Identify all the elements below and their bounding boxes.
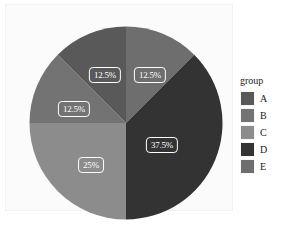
- pie-svg: [29, 26, 223, 220]
- legend-swatch-c: [241, 126, 254, 139]
- legend-item-e[interactable]: E: [240, 158, 286, 175]
- legend-swatch-d: [241, 143, 254, 156]
- legend-key-e: [240, 159, 255, 174]
- pie-chart: 12.5% 12.5% 12.5% 25% 37.5%: [29, 26, 223, 220]
- slice-label-left: 12.5%: [58, 101, 90, 117]
- slice-label-right: 37.5%: [146, 137, 178, 153]
- pie-slices: [30, 27, 223, 220]
- legend-label-c: C: [260, 128, 267, 138]
- legend-item-d[interactable]: D: [240, 141, 286, 158]
- slice-label-top-left: 12.5%: [89, 67, 121, 83]
- slice-label-bottom-left: 25%: [78, 157, 104, 173]
- legend-item-b[interactable]: B: [240, 107, 286, 124]
- plot-panel: 12.5% 12.5% 12.5% 25% 37.5%: [5, 4, 233, 211]
- legend-swatch-b: [241, 109, 254, 122]
- legend-item-c[interactable]: C: [240, 124, 286, 141]
- legend-label-e: E: [260, 162, 266, 172]
- legend-label-b: B: [260, 111, 267, 121]
- legend-label-d: D: [260, 145, 267, 155]
- legend-key-d: [240, 142, 255, 157]
- legend-key-c: [240, 125, 255, 140]
- legend-label-a: A: [260, 94, 267, 104]
- legend-title: group: [240, 76, 286, 86]
- legend-key-a: [240, 91, 255, 106]
- legend: group ABCDE: [240, 76, 286, 175]
- chart-screenshot: 12.5% 12.5% 12.5% 25% 37.5% group ABCDE: [0, 0, 288, 246]
- slice-label-top-right: 12.5%: [134, 67, 166, 83]
- legend-items: ABCDE: [240, 90, 286, 175]
- legend-item-a[interactable]: A: [240, 90, 286, 107]
- legend-swatch-a: [241, 92, 254, 105]
- legend-key-b: [240, 108, 255, 123]
- legend-swatch-e: [241, 160, 254, 173]
